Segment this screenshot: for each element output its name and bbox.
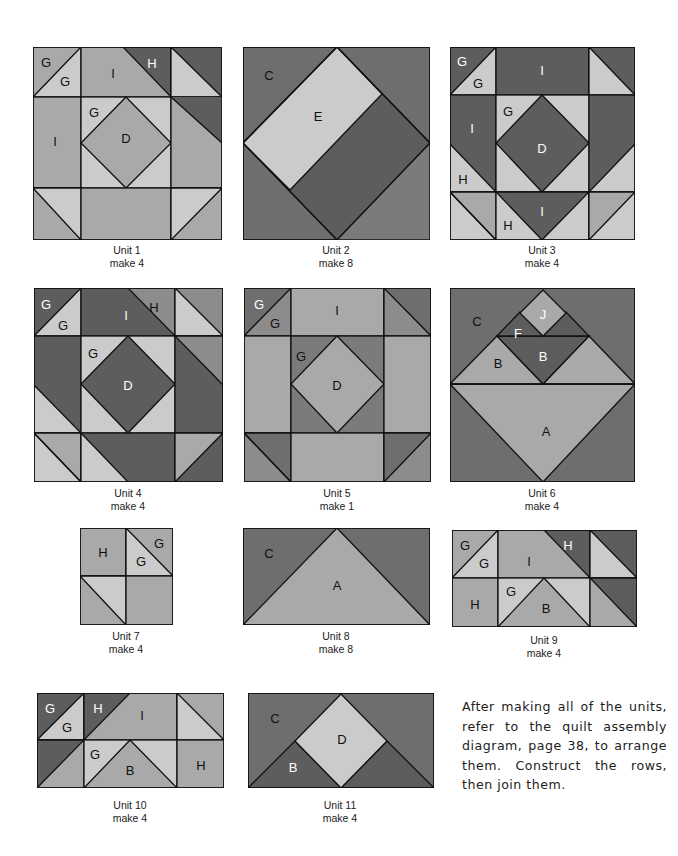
svg-text:H: H (458, 172, 467, 187)
unit-4-diagram: G G I H G D (34, 288, 223, 482)
svg-text:C: C (264, 68, 273, 83)
svg-text:G: G (60, 74, 70, 89)
svg-text:G: G (270, 316, 280, 331)
unit-7-diagram: H G G (80, 528, 173, 625)
unit-6-title: Unit 6 (492, 487, 592, 500)
unit-10-diagram: G G H I G B H (37, 693, 224, 788)
unit-10-quantity: make 4 (80, 812, 180, 825)
svg-text:E: E (314, 109, 323, 124)
svg-text:I: I (140, 708, 144, 723)
svg-text:G: G (254, 297, 264, 312)
unit-2-diagram: C E (243, 47, 430, 240)
svg-text:H: H (98, 545, 107, 560)
svg-text:G: G (90, 747, 100, 762)
unit-11-diagram: C D B (248, 693, 434, 788)
svg-text:G: G (136, 554, 146, 569)
assembly-instructions: After making all of the units, refer to … (462, 697, 667, 795)
unit-9-title: Unit 9 (494, 634, 594, 647)
svg-text:B: B (289, 760, 298, 775)
svg-text:C: C (270, 711, 279, 726)
svg-text:D: D (537, 141, 546, 156)
unit-5-caption: Unit 5 make 1 (287, 487, 387, 513)
svg-text:D: D (332, 378, 341, 393)
unit-10-title: Unit 10 (80, 799, 180, 812)
unit-9-quantity: make 4 (494, 647, 594, 660)
svg-text:H: H (93, 701, 102, 716)
svg-text:G: G (506, 584, 516, 599)
svg-text:G: G (41, 297, 51, 312)
unit-1-diagram: G G I H G I D (33, 47, 222, 240)
unit-11-caption: Unit 11 make 4 (290, 799, 390, 825)
unit-5-diagram: G G I G D (244, 288, 431, 482)
svg-text:G: G (457, 54, 467, 69)
unit-11-title: Unit 11 (290, 799, 390, 812)
unit-9-caption: Unit 9 make 4 (494, 634, 594, 660)
unit-3-quantity: make 4 (492, 257, 592, 270)
unit-2-block: C E (243, 47, 430, 240)
unit-9-block: G G I H H G B (452, 530, 637, 627)
unit-4-caption: Unit 4 make 4 (78, 487, 178, 513)
unit-6-caption: Unit 6 make 4 (492, 487, 592, 513)
unit-1-title: Unit 1 (77, 244, 177, 257)
unit-9-diagram: G G I H H G B (452, 530, 637, 627)
svg-text:G: G (503, 104, 513, 119)
unit-8-title: Unit 8 (286, 630, 386, 643)
svg-text:H: H (196, 758, 205, 773)
unit-1-block: G G I H G I D (33, 47, 222, 240)
svg-text:B: B (126, 763, 135, 778)
svg-text:G: G (88, 346, 98, 361)
unit-4-block: G G I H G D (34, 288, 223, 482)
unit-3-diagram: G G I G I D H H I (450, 47, 635, 240)
svg-text:I: I (527, 554, 531, 569)
unit-5-block: G G I G D (244, 288, 431, 482)
svg-text:G: G (45, 701, 55, 716)
svg-text:G: G (62, 720, 72, 735)
svg-text:H: H (149, 300, 158, 315)
svg-text:D: D (123, 378, 132, 393)
unit-3-block: G G I G I D H H I (450, 47, 635, 240)
unit-4-quantity: make 4 (78, 500, 178, 513)
svg-text:B: B (539, 349, 548, 364)
unit-11-quantity: make 4 (290, 812, 390, 825)
unit-8-quantity: make 8 (286, 643, 386, 656)
svg-text:F: F (514, 326, 522, 341)
svg-text:I: I (540, 204, 544, 219)
svg-text:G: G (473, 76, 483, 91)
svg-text:H: H (563, 538, 572, 553)
unit-5-quantity: make 1 (287, 500, 387, 513)
svg-text:I: I (111, 66, 115, 81)
unit-3-title: Unit 3 (492, 244, 592, 257)
unit-6-diagram: C J F B B A (450, 288, 635, 482)
svg-text:I: I (124, 308, 128, 323)
svg-text:H: H (147, 56, 156, 71)
svg-text:I: I (53, 134, 57, 149)
unit-5-title: Unit 5 (287, 487, 387, 500)
unit-2-title: Unit 2 (286, 244, 386, 257)
svg-text:I: I (540, 63, 544, 78)
unit-6-quantity: make 4 (492, 500, 592, 513)
svg-text:I: I (470, 121, 474, 136)
svg-text:G: G (154, 536, 164, 551)
svg-text:G: G (296, 349, 306, 364)
unit-6-block: C J F B B A (450, 288, 635, 482)
svg-text:B: B (542, 601, 551, 616)
svg-text:G: G (58, 318, 68, 333)
svg-text:I: I (335, 303, 339, 318)
unit-10-caption: Unit 10 make 4 (80, 799, 180, 825)
svg-text:C: C (472, 314, 481, 329)
unit-7-block: H G G (80, 528, 173, 625)
unit-8-block: C A (243, 528, 430, 625)
unit-10-block: G G H I G B H (37, 693, 224, 788)
unit-2-caption: Unit 2 make 8 (286, 244, 386, 270)
svg-text:G: G (89, 105, 99, 120)
unit-1-caption: Unit 1 make 4 (77, 244, 177, 270)
svg-text:A: A (333, 578, 342, 593)
svg-text:H: H (470, 597, 479, 612)
svg-text:J: J (540, 307, 547, 322)
svg-text:G: G (460, 538, 470, 553)
svg-text:A: A (542, 424, 551, 439)
svg-text:D: D (121, 131, 130, 146)
svg-text:D: D (337, 732, 346, 747)
unit-2-quantity: make 8 (286, 257, 386, 270)
svg-text:G: G (41, 55, 51, 70)
